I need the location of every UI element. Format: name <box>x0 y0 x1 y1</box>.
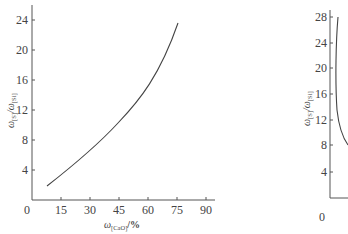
left-x-axis-label: ω[CaO]/% <box>104 219 140 232</box>
left-xtick-75: 75 <box>171 203 183 217</box>
figure: 4 8 12 16 20 24 0 15 30 45 60 75 90 ω[Ca… <box>0 0 348 234</box>
right-ytick-16: 16 <box>315 87 327 101</box>
right-ytick-24: 24 <box>315 36 327 50</box>
left-ytick-20: 20 <box>16 43 28 57</box>
right-ytick-12: 12 <box>315 113 327 127</box>
left-ytick-16: 16 <box>16 73 28 87</box>
left-data-curve <box>47 23 178 186</box>
left-xtick-45: 45 <box>113 203 125 217</box>
right-chart: 0 4 8 12 16 20 24 28 ω[S]/ω[Si] <box>301 10 348 224</box>
left-chart: 4 8 12 16 20 24 0 15 30 45 60 75 90 ω[Ca… <box>5 5 215 232</box>
right-data-curve <box>336 17 348 145</box>
right-ytick-28: 28 <box>315 10 327 24</box>
left-ytick-8: 8 <box>22 133 28 147</box>
left-xtick-30: 30 <box>84 203 96 217</box>
right-ytick-8: 8 <box>321 138 327 152</box>
right-ytick-20: 20 <box>315 61 327 75</box>
left-ytick-24: 24 <box>16 13 28 27</box>
right-ytick-4: 4 <box>321 165 327 179</box>
right-ytick-0: 0 <box>319 210 325 224</box>
left-xtick-90: 90 <box>200 203 212 217</box>
left-xtick-0: 0 <box>24 203 30 217</box>
left-xtick-60: 60 <box>142 203 154 217</box>
right-y-axis-label: ω[S]/ω[Si] <box>301 91 314 126</box>
left-xtick-15: 15 <box>55 203 67 217</box>
left-ytick-12: 12 <box>16 103 28 117</box>
left-ytick-4: 4 <box>22 163 28 177</box>
